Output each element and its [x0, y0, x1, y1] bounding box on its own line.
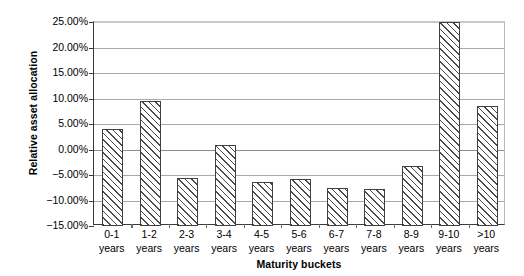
bar: [102, 129, 123, 226]
y-tick-label: 25.00%: [26, 15, 88, 27]
bar: [140, 101, 161, 226]
y-tick-label: 0.00%: [26, 143, 88, 155]
y-tick-label: −10.00%: [26, 194, 88, 206]
x-tick-label: >10years: [473, 228, 499, 255]
bar: [177, 178, 198, 226]
bar: [215, 145, 236, 226]
y-tick-label: 20.00%: [26, 41, 88, 53]
bar: [402, 166, 423, 226]
bar: [364, 189, 385, 226]
bar-chart: Relative asset allocation 25.00%20.00%15…: [0, 0, 524, 276]
x-tick-label: 9-10years: [436, 228, 462, 255]
x-tick-label: 5-6years: [286, 228, 312, 255]
y-tick-mark: [89, 226, 94, 227]
x-tick-label: 7-8years: [361, 228, 387, 255]
x-tick-label: 0-1years: [99, 228, 125, 255]
x-tick-label: 2-3years: [174, 228, 200, 255]
bar: [439, 22, 460, 227]
x-tick-label: 1-2years: [136, 228, 162, 255]
bar: [327, 188, 348, 226]
y-tick-label: 5.00%: [26, 117, 88, 129]
bars: [94, 22, 504, 224]
y-tick-label: −15.00%: [26, 219, 88, 231]
x-tick-label: 3-4years: [211, 228, 237, 255]
y-axis-tick-labels: 25.00%20.00%15.00%10.00%5.00%0.00%−5.00%…: [26, 0, 88, 276]
bar: [477, 106, 498, 226]
bar: [290, 179, 311, 226]
y-tick-label: 15.00%: [26, 66, 88, 78]
y-tick-label: −5.00%: [26, 168, 88, 180]
x-axis-title: Maturity buckets: [93, 258, 505, 270]
x-tick-label: 4-5years: [249, 228, 275, 255]
x-tick-label: 6-7years: [324, 228, 350, 255]
plot-area: [93, 21, 505, 225]
bar: [252, 182, 273, 226]
y-tick-label: 10.00%: [26, 92, 88, 104]
x-tick-label: 8-9years: [399, 228, 425, 255]
